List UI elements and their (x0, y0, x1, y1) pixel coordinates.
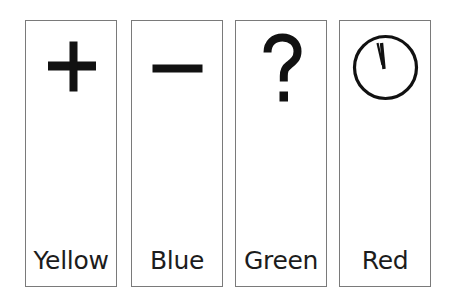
card-yellow[interactable]: Yellow (25, 20, 117, 287)
clock-icon (340, 21, 430, 121)
card-blue[interactable]: Blue (131, 20, 223, 287)
minus-icon (132, 21, 222, 121)
plus-icon (26, 21, 116, 121)
card-label: Blue (132, 245, 222, 277)
card-label: Yellow (26, 245, 116, 277)
card-green[interactable]: Green (235, 20, 327, 287)
question-mark-icon (236, 21, 326, 121)
card-label: Green (236, 245, 326, 277)
card-red[interactable]: Red (339, 20, 431, 287)
card-label: Red (340, 245, 430, 277)
